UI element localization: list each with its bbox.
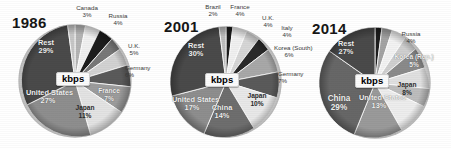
label-japan-name: Japan xyxy=(71,104,99,112)
label-russia-name: Russia xyxy=(103,12,133,19)
label-japan-pct-2001: 10% xyxy=(242,100,272,108)
chart-year-2001: 2001 xyxy=(164,18,199,35)
label-brazil-2001: Brazil 2% xyxy=(200,3,226,17)
label-rest-2001: Rest 30% xyxy=(182,42,210,59)
label-korea-pct-2014: 5% xyxy=(393,61,435,69)
label-canada-pct: 3% xyxy=(70,11,104,18)
label-united-states-1986: United States 27% xyxy=(26,89,70,106)
label-korea-name-2014: Korea (Rep.) xyxy=(393,53,435,61)
label-rest-pct-2014: 27% xyxy=(332,48,360,56)
label-germany-pct-2001: 7% xyxy=(278,77,310,84)
label-korea-rep-2014: Korea (Rep.) 5% xyxy=(393,53,435,68)
label-canada-name: Canada xyxy=(70,4,104,11)
label-us-pct: 27% xyxy=(26,97,70,105)
label-japan-name-2001: Japan xyxy=(242,92,272,100)
label-rest-1986: Rest 29% xyxy=(32,39,60,56)
pie-chart-panel-1986: 1986 xyxy=(0,0,150,148)
label-france-pct: 7% xyxy=(96,95,122,103)
label-russia-pct-2014: 4% xyxy=(398,37,424,44)
pie-chart-figure: 1986 xyxy=(0,0,451,148)
unit-badge-2001: kbps xyxy=(205,73,239,87)
unit-badge-2014: kbps xyxy=(355,74,389,88)
label-china-2014: China 29% xyxy=(322,94,356,113)
label-rest-pct: 29% xyxy=(32,47,60,55)
label-russia-1986: Russia 4% xyxy=(103,12,133,26)
label-uk-1986: U.K. 5% xyxy=(121,42,147,56)
label-korea-pct: 6% xyxy=(274,51,304,58)
unit-badge-1986: kbps xyxy=(56,72,90,86)
label-china-name-2014: China xyxy=(322,94,356,103)
label-germany-1986: Germany 6% xyxy=(125,64,157,78)
label-china-pct-2014: 29% xyxy=(322,103,356,112)
label-uk-pct: 5% xyxy=(121,49,147,56)
label-russia-2014: Russia 4% xyxy=(398,30,424,44)
label-russia-pct: 4% xyxy=(103,19,133,26)
label-italy-name: Italy xyxy=(276,24,298,31)
chart-year-2014: 2014 xyxy=(312,20,347,37)
label-uk-name: U.K. xyxy=(121,42,147,49)
label-germany-2001: Germany 7% xyxy=(278,70,310,84)
label-brazil-pct: 2% xyxy=(200,10,226,17)
label-italy-2001: Italy 4% xyxy=(276,24,298,38)
chart-year-1986: 1986 xyxy=(12,14,47,31)
label-uk-name-2001: U.K. xyxy=(256,14,280,21)
label-korea-name: Korea (South) xyxy=(274,44,304,51)
label-us-pct-2001: 17% xyxy=(172,104,212,112)
label-france-name: France xyxy=(96,87,122,95)
label-germany-name: Germany xyxy=(125,64,157,71)
label-italy-pct: 4% xyxy=(276,31,298,38)
label-russia-name-2014: Russia xyxy=(398,30,424,37)
label-germany-name-2001: Germany xyxy=(278,70,310,77)
label-united-states-2014: United States 13% xyxy=(359,94,399,111)
label-brazil-name: Brazil xyxy=(200,3,226,10)
label-china-pct-2001: 14% xyxy=(207,112,237,120)
pie-chart-panel-2001: 2001 xyxy=(150,0,300,148)
label-us-pct-2014: 13% xyxy=(359,102,399,110)
label-japan-pct: 11% xyxy=(71,112,99,120)
label-korea-south-2001: Korea (South) 6% xyxy=(274,44,304,58)
label-japan-name-2014: Japan xyxy=(393,81,421,89)
label-rest-pct-2001: 30% xyxy=(182,50,210,58)
label-japan-1986: Japan 11% xyxy=(71,104,99,119)
pie-chart-panel-2014: 2014 xyxy=(300,0,451,148)
label-france-pct-2001: 4% xyxy=(227,10,253,17)
label-united-states-2001: United States 17% xyxy=(172,96,212,113)
label-rest-2014: Rest 27% xyxy=(332,40,360,57)
label-france-1986: France 7% xyxy=(96,87,122,102)
label-canada-1986: Canada 3% xyxy=(70,4,104,18)
label-germany-pct: 6% xyxy=(125,71,157,78)
label-france-2001: France 4% xyxy=(227,3,253,17)
label-japan-2001: Japan 10% xyxy=(242,92,272,107)
label-france-name-2001: France xyxy=(227,3,253,10)
